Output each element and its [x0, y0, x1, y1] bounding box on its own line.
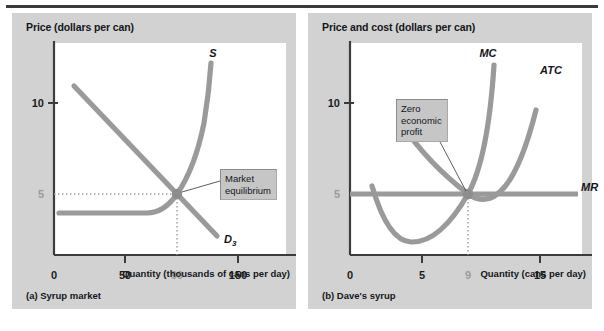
panel-caption-a: (a) Syrup market: [26, 290, 101, 301]
equilibrium-dot-a: [172, 189, 182, 199]
curve-label-demand-subscript: 3: [232, 239, 237, 248]
equilibrium-dot-b: [463, 189, 473, 199]
curve-label-demand: D3: [224, 233, 237, 248]
x-axis-title-a: Quantity (thousands of cans per day): [122, 268, 290, 279]
figure-container: Price (dollars per can) 10 5: [0, 0, 604, 331]
callout-line-3: profit: [401, 126, 442, 138]
curve-label-demand-base: D: [224, 233, 232, 245]
y-tick-label-10-a: 10: [32, 97, 44, 109]
y-tick-label-5-b: 5: [334, 188, 340, 200]
chart-a: 10 5 0 50 90 150 S D3: [12, 13, 296, 309]
panel-daves-syrup: Price and cost (dollars per can): [308, 13, 592, 309]
x-tick-label-0-a: 0: [51, 269, 57, 281]
callout-leader-a: [182, 181, 220, 192]
curve-label-marginal-revenue: MR: [581, 181, 598, 193]
curve-label-marginal-cost: MC: [479, 47, 497, 59]
callout-line-2: equilibrium: [225, 185, 271, 197]
y-tick-label-10-b: 10: [328, 97, 340, 109]
x-tick-label-5-b: 5: [419, 269, 425, 281]
panel-caption-b: (b) Dave's syrup: [322, 290, 396, 301]
x-axis-title-b: Quantity (cans per day): [480, 268, 586, 279]
panel-syrup-market: Price (dollars per can) 10 5: [12, 13, 296, 309]
curve-label-average-total-cost: ATC: [539, 64, 563, 76]
figure-top-rule: [6, 5, 598, 8]
curve-label-supply: S: [209, 47, 217, 59]
callout-line-1: Zero: [401, 103, 442, 115]
x-tick-label-0-b: 0: [347, 269, 353, 281]
callout-line-2: economic: [401, 115, 442, 127]
callout-zero-economic-profit: Zero economic profit: [396, 99, 448, 142]
callout-line-1: Market: [225, 173, 271, 185]
callout-market-equilibrium: Market equilibrium: [220, 169, 277, 200]
x-tick-label-9-b: 9: [465, 269, 471, 281]
y-tick-label-5-a: 5: [38, 188, 44, 200]
marginal-cost-curve: [372, 65, 494, 242]
chart-b: 10 5 0 5 9 15 MC ATC MR: [308, 13, 592, 309]
